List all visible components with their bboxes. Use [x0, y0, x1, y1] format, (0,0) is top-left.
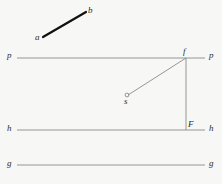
label-line-p-left: p: [7, 51, 12, 60]
label-line-h-left: h: [7, 124, 12, 133]
label-point-F-capital: F: [188, 120, 194, 129]
diagonal-line-s-to-f: [128, 58, 186, 95]
label-point-s: s: [124, 97, 128, 106]
label-point-b: b: [88, 6, 93, 15]
label-line-g-right: g: [209, 159, 214, 168]
segment-ab: [43, 12, 86, 37]
geometry-figure: a b p p h h g g f F s: [0, 0, 222, 184]
figure-canvas: [0, 0, 222, 184]
label-line-h-right: h: [209, 124, 214, 133]
label-line-p-right: p: [209, 51, 214, 60]
label-point-f: f: [183, 47, 186, 56]
label-point-a: a: [35, 33, 40, 42]
label-line-g-left: g: [7, 159, 12, 168]
